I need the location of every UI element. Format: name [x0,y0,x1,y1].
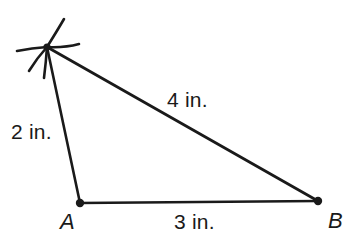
triangle-construction-drawing [0,0,349,245]
side-ab-line [80,201,318,203]
side-label-ca: 2 in. [11,121,52,142]
vertex-b-dot [314,197,322,205]
geometry-diagram: 2 in. 4 in. 3 in. A B [0,0,349,245]
vertex-label-a: A [60,211,75,233]
arc-up-right-icon [47,19,64,47]
side-ca-line [47,47,80,203]
side-label-cb: 4 in. [167,89,208,110]
vertex-a-dot [76,199,84,207]
apex-intersection-dot [43,43,50,50]
side-cb-line [47,47,318,201]
vertex-label-b: B [328,210,343,232]
side-label-ab: 3 in. [174,211,215,232]
construction-arc-group [17,19,79,78]
arc-right-horizontal-icon [47,44,79,47]
